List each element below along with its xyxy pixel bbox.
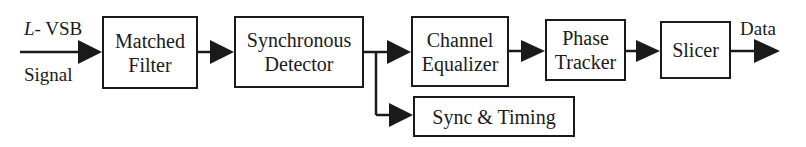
- arrow-icon: [210, 40, 234, 64]
- arrow-icon: [636, 40, 660, 62]
- arrow-icon: [754, 39, 780, 63]
- block-synchronous-detector: Synchronous Detector: [234, 16, 364, 88]
- arrow-icon: [389, 103, 413, 127]
- output-label-data: Data: [740, 18, 776, 40]
- arrow-icon: [78, 40, 102, 64]
- input-label-signal: Signal: [24, 64, 73, 86]
- arrow-icon: [521, 40, 545, 62]
- block-phase-tracker: Phase Tracker: [545, 19, 626, 81]
- block-slicer: Slicer: [660, 21, 731, 79]
- input-label-vsb: L- VSB: [24, 18, 82, 40]
- block-sync-timing: Sync & Timing: [413, 96, 575, 137]
- block-channel-equalizer: Channel Equalizer: [411, 16, 509, 87]
- block-matched-filter: Matched Filter: [102, 16, 198, 89]
- arrow-icon: [387, 40, 411, 64]
